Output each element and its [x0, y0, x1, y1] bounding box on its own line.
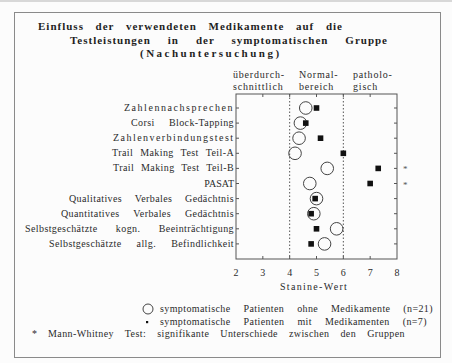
data-point-with-medication: [308, 241, 314, 247]
x-tick-label: 4: [280, 267, 300, 279]
data-point-with-medication: [312, 196, 318, 202]
legend-filled-square-icon: [146, 321, 148, 323]
x-tick-label: 6: [333, 267, 353, 279]
x-tick-label: 5: [307, 267, 327, 279]
x-tick-label: 8: [387, 267, 407, 279]
data-point-without-medication: [321, 162, 334, 175]
legend-entry-with-medication: symptomatische Patienten mit Medikamente…: [160, 316, 427, 328]
footnote-asterisk: *: [32, 328, 37, 340]
significance-asterisk: *: [403, 180, 408, 190]
data-point-without-medication: [303, 177, 316, 190]
legend-entry-without-medication: symptomatische Patienten ohne Medikament…: [160, 303, 433, 315]
x-tick-label: 2: [226, 267, 246, 279]
data-point-with-medication: [314, 105, 320, 111]
data-point-with-medication: [308, 211, 314, 217]
plot-frame: [236, 94, 397, 259]
legend-open-circle-icon: [143, 304, 153, 314]
footnote-text: Mann-Whitney Test: signifikante Untersch…: [48, 328, 405, 340]
x-tick-label: 7: [360, 267, 380, 279]
data-point-with-medication: [314, 226, 320, 232]
data-point-without-medication: [293, 132, 306, 145]
x-axis-title: Stanine-Wert: [280, 281, 350, 293]
data-point-with-medication: [318, 135, 324, 141]
data-point-with-medication: [375, 166, 381, 172]
significance-asterisk: *: [403, 164, 408, 174]
data-point-without-medication: [318, 238, 331, 251]
data-point-with-medication: [303, 120, 309, 126]
data-point-without-medication: [330, 223, 343, 236]
data-point-without-medication: [299, 102, 312, 115]
data-point-without-medication: [289, 147, 302, 160]
data-point-with-medication: [367, 181, 373, 187]
data-point-with-medication: [341, 151, 347, 157]
x-tick-label: 3: [253, 267, 273, 279]
